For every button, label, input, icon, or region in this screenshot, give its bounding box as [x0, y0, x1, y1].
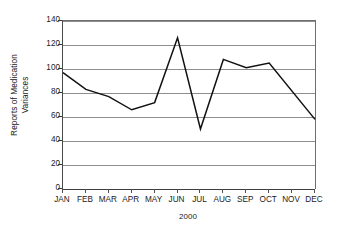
x-axis-tick-mark	[268, 189, 269, 193]
y-axis-tick-label: 100	[36, 64, 60, 72]
y-axis-tick-mark	[58, 188, 62, 189]
x-axis-tick-mark	[291, 189, 292, 193]
x-axis-title: 2000	[62, 212, 314, 221]
y-axis-tick-label: 80	[36, 88, 60, 96]
y-axis-tick-label: 40	[36, 136, 60, 144]
y-axis-tick-label: 140	[36, 16, 60, 24]
plot-area	[62, 20, 316, 189]
x-axis-tick-labels: JANFEBMARAPRMAYJUNJULAUGSEPOCTNOVDEC	[40, 195, 340, 209]
series-polyline	[63, 38, 315, 129]
x-axis-tick-mark	[108, 189, 109, 193]
x-axis-tick-mark	[177, 189, 178, 193]
x-axis-tick-mark	[245, 189, 246, 193]
x-axis-tick-mark	[314, 189, 315, 193]
x-axis-tick-mark	[222, 189, 223, 193]
y-axis-tick-label: 60	[36, 112, 60, 120]
x-axis-tick-label: DEC	[297, 195, 331, 205]
x-axis-tick-mark	[85, 189, 86, 193]
y-axis-tick-mark	[58, 44, 62, 45]
x-axis-tick-mark	[131, 189, 132, 193]
x-axis-tick-mark	[154, 189, 155, 193]
y-axis-tick-mark	[58, 116, 62, 117]
y-axis-title-line-2: Variances	[20, 54, 31, 136]
x-axis-tick-mark	[199, 189, 200, 193]
data-series-line	[63, 21, 315, 189]
y-axis-tick-mark	[58, 164, 62, 165]
y-axis-tick-mark	[58, 20, 62, 21]
y-axis-tick-label: 20	[36, 160, 60, 168]
y-axis-title: Reports of Medication Variances	[0, 0, 40, 190]
y-axis-tick-mark	[58, 92, 62, 93]
line-chart: Reports of Medication Variances 02040608…	[0, 0, 340, 233]
y-axis-tick-mark	[58, 140, 62, 141]
y-axis-tick-label: 0	[36, 184, 60, 192]
y-axis-tick-mark	[58, 68, 62, 69]
y-axis-tick-label: 120	[36, 40, 60, 48]
y-axis-tick-labels: 020406080100120140	[36, 0, 60, 195]
x-axis-tick-mark	[62, 189, 63, 193]
y-axis-title-line-1: Reports of Medication	[10, 54, 19, 136]
